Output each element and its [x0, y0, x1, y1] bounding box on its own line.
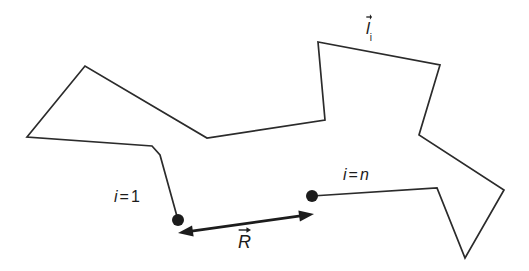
- l-vector-symbol: li: [366, 20, 372, 40]
- end-index-label: i=n: [343, 167, 369, 183]
- r-symbol-text: R: [238, 232, 251, 252]
- end-index-equals: =: [347, 166, 360, 183]
- vector-arrow-over-r-icon: [238, 226, 251, 233]
- polymer-chain-path: [27, 42, 504, 258]
- start-index-equals: =: [118, 188, 131, 205]
- vector-arrow-over-l-icon: [366, 13, 372, 20]
- chain-end-node: [306, 190, 318, 202]
- random-walk-figure: li i=1 i=n R: [0, 0, 529, 271]
- start-index-label: i=1: [114, 189, 140, 205]
- segment-vector-label: li: [366, 20, 372, 40]
- r-vector-symbol: R: [238, 233, 251, 251]
- start-index-value: 1: [131, 188, 140, 205]
- chain-diagram-svg: [0, 0, 529, 271]
- r-vector-arrowhead-right: [298, 211, 314, 222]
- end-to-end-vector-label: R: [238, 233, 251, 251]
- end-index-value: n: [360, 166, 369, 183]
- l-subscript-text: i: [370, 32, 372, 43]
- r-vector-arrowhead-left: [178, 225, 194, 236]
- chain-end-node: [172, 214, 184, 226]
- chain-node-markers: [172, 190, 318, 226]
